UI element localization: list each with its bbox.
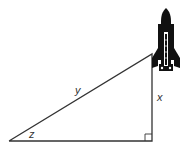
- vertical-side-label: x: [157, 92, 163, 103]
- space-shuttle-icon: [152, 8, 180, 71]
- angle-label: z: [29, 129, 35, 140]
- right-angle-marker: [145, 134, 152, 141]
- hypotenuse-label: y: [75, 85, 81, 96]
